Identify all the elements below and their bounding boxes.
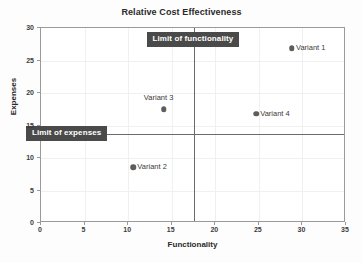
x-tick-mark — [301, 222, 302, 225]
x-tick-label: 5 — [82, 226, 86, 233]
x-tick-label: 20 — [210, 226, 218, 233]
x-tick-mark — [40, 222, 41, 225]
y-tick-label: 20 — [8, 89, 34, 96]
x-tick-mark — [171, 222, 172, 225]
x-tick-mark — [84, 222, 85, 225]
y-tick-mark — [37, 60, 40, 61]
y-tick-mark — [37, 27, 40, 28]
gridline-horizontal — [41, 93, 344, 94]
x-tick-mark — [345, 222, 346, 225]
x-tick-mark — [258, 222, 259, 225]
chart-container: Relative Cost Effectiveness Expenses Fun… — [0, 0, 363, 263]
x-tick-label: 30 — [298, 226, 306, 233]
callout-limit-of-expenses: Limit of expenses — [26, 126, 107, 141]
x-tick-label: 10 — [123, 226, 131, 233]
gridline-horizontal — [41, 191, 344, 192]
chart-title: Relative Cost Effectiveness — [0, 7, 363, 17]
data-point-label: Variant 2 — [137, 162, 166, 171]
data-point-marker[interactable] — [161, 107, 167, 113]
data-point-marker[interactable] — [253, 111, 259, 117]
data-point-marker[interactable] — [289, 45, 295, 51]
gridline-horizontal — [41, 158, 344, 159]
x-tick-label: 0 — [38, 226, 42, 233]
x-tick-label: 15 — [167, 226, 175, 233]
y-tick-mark — [37, 222, 40, 223]
y-tick-mark — [37, 157, 40, 158]
callout-limit-of-functionality: Limit of functionality — [147, 32, 240, 47]
gridline-vertical — [172, 28, 173, 221]
gridline-vertical — [128, 28, 129, 221]
y-tick-mark — [37, 92, 40, 93]
x-tick-label: 35 — [341, 226, 349, 233]
data-point-label: Variant 1 — [296, 43, 325, 52]
gridline-vertical — [85, 28, 86, 221]
y-tick-mark — [37, 190, 40, 191]
x-tick-mark — [127, 222, 128, 225]
data-point-marker[interactable] — [131, 164, 137, 170]
x-tick-label: 25 — [254, 226, 262, 233]
data-point-label: Variant 3 — [144, 93, 173, 102]
y-tick-label: 30 — [8, 24, 34, 31]
reference-line — [194, 28, 195, 221]
y-tick-label: 5 — [8, 186, 34, 193]
plot-area: Variant 1Variant 2Variant 3Variant 4 — [40, 27, 345, 222]
y-tick-label: 25 — [8, 56, 34, 63]
y-tick-mark — [37, 125, 40, 126]
y-tick-label: 0 — [8, 219, 34, 226]
x-axis-label: Functionality — [40, 240, 345, 249]
y-tick-label: 10 — [8, 154, 34, 161]
y-tick-label: 15 — [8, 121, 34, 128]
gridline-vertical — [215, 28, 216, 221]
gridline-vertical — [259, 28, 260, 221]
gridline-horizontal — [41, 61, 344, 62]
gridline-vertical — [302, 28, 303, 221]
x-tick-mark — [214, 222, 215, 225]
data-point-label: Variant 4 — [260, 109, 289, 118]
